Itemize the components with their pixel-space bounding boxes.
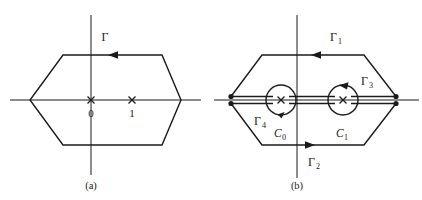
svg-text:1: 1 (344, 133, 348, 142)
caption-b: (b) (291, 180, 304, 192)
svg-text:Γ: Γ (361, 74, 368, 88)
svg-text:Γ: Γ (330, 30, 337, 44)
label-c1-b: C 1 (336, 127, 348, 142)
svg-text:Γ: Γ (254, 114, 261, 128)
endpoint-dot-lower-right-b (393, 101, 398, 106)
svg-text:C: C (274, 127, 282, 139)
label-gamma3-b: Γ 3 (361, 74, 373, 90)
arrowhead-gamma-a (108, 51, 118, 59)
svg-text:2: 2 (316, 162, 320, 171)
svg-text:4: 4 (262, 121, 266, 130)
svg-text:3: 3 (369, 81, 373, 90)
panel-a: Γ 0 1 (a) (0, 0, 211, 200)
svg-text:C: C (336, 127, 344, 139)
svg-text:Γ: Γ (308, 155, 315, 169)
endpoint-dot-upper-right-b (393, 94, 398, 99)
svg-text:0: 0 (282, 133, 286, 142)
label-gamma1-b: Γ 1 (330, 30, 342, 46)
label-gamma2-b: Γ 2 (308, 155, 320, 171)
arrowhead-gamma2-b (305, 141, 315, 149)
svg-text:1: 1 (338, 37, 342, 46)
endpoint-dot-lower-left-b (228, 101, 233, 106)
arrowhead-c1-b (339, 82, 349, 89)
label-c0-b: C 0 (274, 127, 286, 142)
label-gamma-a: Γ (102, 30, 109, 44)
arrowhead-gamma1-b (311, 51, 321, 59)
endpoint-dot-upper-left-b (228, 94, 233, 99)
caption-a: (a) (85, 180, 97, 192)
pole-label-0-a: 0 (88, 107, 94, 119)
pole-label-1-a: 1 (129, 107, 135, 119)
contour-gamma1-b (231, 55, 396, 97)
label-gamma4-b: Γ 4 (254, 114, 266, 130)
panel-b: Γ 1 Γ 2 Γ 3 Γ 4 C 0 C 1 (b) (211, 0, 422, 200)
figure-root: Γ 0 1 (a) (0, 0, 422, 200)
